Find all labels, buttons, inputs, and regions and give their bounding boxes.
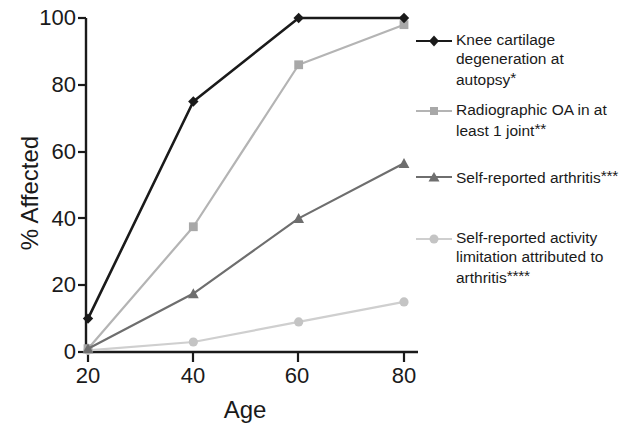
series-line (88, 302, 404, 350)
legend-footnote-marks: *** (601, 167, 618, 184)
legend-label: Self-reported activitylimitation attribu… (456, 228, 627, 287)
legend-label-line1: Radiographic OA in at (456, 101, 607, 118)
legend-label: Radiographic OA in atleast 1 joint** (456, 100, 627, 140)
legend-label-line1: Self-reported arthritis (456, 169, 601, 186)
legend-footnote-marks: * (510, 69, 516, 86)
series-layer (83, 13, 410, 355)
series-line (88, 18, 404, 319)
legend-marker-diamond (416, 33, 452, 49)
legend-marker-triangle (416, 169, 452, 185)
data-point-square (294, 60, 303, 69)
data-point-diamond (83, 313, 93, 323)
axis-lines (78, 18, 418, 362)
chart-figure: % Affected 100 80 60 40 20 0 20 40 60 80… (0, 0, 627, 423)
legend-label-line1: Self-reported activity (456, 229, 597, 246)
legend-footnote-marks: **** (507, 267, 530, 284)
data-point-circle (189, 337, 198, 346)
legend-label: Knee cartilagedegeneration at autopsy* (456, 30, 627, 89)
series-diamond (83, 13, 409, 324)
data-point-circle (399, 297, 408, 306)
series-line (88, 25, 404, 349)
data-point-triangle (399, 158, 410, 168)
data-point-triangle (293, 213, 304, 223)
data-point-circle (294, 317, 303, 326)
series-triangle (83, 158, 410, 353)
legend-footnote-marks: ** (534, 120, 545, 137)
legend-label-line3: arthritis (456, 269, 507, 286)
legend-label-line2: least 1 joint (456, 122, 534, 139)
legend-marker-square (416, 103, 452, 119)
legend-marker-circle (416, 231, 452, 247)
legend-label: Self-reported arthritis*** (456, 166, 627, 187)
data-point-square (189, 222, 198, 231)
legend-label-line1: Knee cartilage (456, 31, 555, 48)
legend-label-line2: limitation attributed to (456, 248, 603, 265)
series-line (88, 163, 404, 348)
